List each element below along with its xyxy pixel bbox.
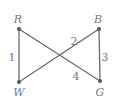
node-label-w: W — [13, 86, 26, 99]
node-label-r: R — [13, 13, 22, 26]
edges — [19, 29, 100, 82]
edge-label-3: 3 — [102, 51, 109, 64]
edge-label-1: 1 — [9, 51, 16, 64]
edge-label-2: 2 — [71, 35, 78, 48]
edge-b-g — [99, 29, 100, 81]
node-r — [17, 27, 21, 31]
edge-label-4: 4 — [73, 70, 80, 83]
graph-diagram: R B W G 1 2 3 4 — [0, 0, 117, 110]
node-label-b: B — [93, 13, 102, 26]
node-g — [98, 79, 102, 83]
edge-labels: 1 2 3 4 — [9, 35, 109, 83]
node-b — [97, 27, 101, 31]
node-label-g: G — [96, 86, 105, 99]
node-w — [17, 80, 21, 84]
